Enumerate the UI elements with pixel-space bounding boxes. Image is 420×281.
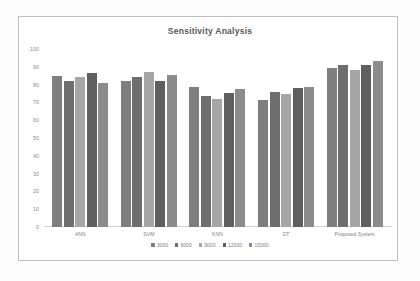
legend-item[interactable]: 9000 (199, 242, 216, 248)
y-axis-tick: 100 (19, 46, 39, 52)
bar[interactable] (132, 77, 142, 227)
y-axis-tick: 10 (19, 206, 39, 212)
bar[interactable] (338, 65, 348, 227)
bar[interactable] (224, 93, 234, 227)
y-axis-tick: 60 (19, 117, 39, 123)
bar[interactable] (373, 61, 383, 227)
x-axis-category-label: KNN (183, 231, 252, 237)
plot-area: 1009080706050403020100 ANNSVMKNNDTPropos… (44, 49, 391, 227)
x-axis-category-label: Proposed System (320, 231, 389, 237)
bar[interactable] (64, 81, 74, 227)
legend-swatch-icon (199, 243, 202, 246)
x-axis-category-label: DT (252, 231, 321, 237)
bar[interactable] (52, 76, 62, 227)
legend-item[interactable]: 12000 (223, 242, 243, 248)
x-axis-category-label: SVM (115, 231, 184, 237)
bar-group: SVM (115, 49, 184, 227)
chart-legend: 3000600090001200015000 (0, 242, 420, 248)
legend-swatch-icon (175, 243, 178, 246)
bar[interactable] (327, 68, 337, 227)
y-axis-tick: 90 (19, 64, 39, 70)
bar[interactable] (98, 83, 108, 227)
bar[interactable] (167, 75, 177, 227)
bar[interactable] (189, 87, 199, 227)
legend-item[interactable]: 15000 (249, 242, 269, 248)
bar[interactable] (350, 70, 360, 227)
legend-label: 3000 (157, 242, 168, 248)
y-axis-tick: 70 (19, 99, 39, 105)
bar[interactable] (75, 77, 85, 227)
y-axis-tick: 20 (19, 188, 39, 194)
bar-groups: ANNSVMKNNDTProposed System (44, 49, 391, 227)
bar-group: DT (252, 49, 321, 227)
y-axis-tick: 50 (19, 135, 39, 141)
bar-group: ANN (46, 49, 115, 227)
bar[interactable] (293, 88, 303, 227)
legend-item[interactable]: 6000 (175, 242, 192, 248)
bar[interactable] (361, 65, 371, 227)
bar[interactable] (121, 81, 131, 227)
bar[interactable] (87, 73, 97, 227)
chart-title: Sensitivity Analysis (0, 26, 420, 36)
x-axis-category-label: ANN (46, 231, 115, 237)
bar[interactable] (270, 92, 280, 227)
bar[interactable] (235, 89, 245, 227)
bar-group: KNN (183, 49, 252, 227)
bar[interactable] (281, 94, 291, 227)
legend-swatch-icon (151, 243, 154, 246)
bar[interactable] (201, 96, 211, 227)
bar[interactable] (155, 81, 165, 227)
y-axis-tick: 30 (19, 171, 39, 177)
legend-item[interactable]: 3000 (151, 242, 168, 248)
legend-label: 9000 (204, 242, 215, 248)
legend-swatch-icon (249, 243, 252, 246)
legend-label: 12000 (228, 242, 242, 248)
bar[interactable] (144, 72, 154, 227)
y-axis-tick: 80 (19, 82, 39, 88)
bar-group: Proposed System (320, 49, 389, 227)
bar[interactable] (304, 87, 314, 227)
y-axis-tick: 0 (19, 224, 39, 230)
chart-page: Sensitivity Analysis 1009080706050403020… (0, 0, 420, 281)
bar[interactable] (212, 99, 222, 227)
legend-label: 15000 (254, 242, 268, 248)
legend-label: 6000 (180, 242, 191, 248)
y-axis-tick: 40 (19, 153, 39, 159)
bar[interactable] (258, 100, 268, 227)
legend-swatch-icon (223, 243, 226, 246)
